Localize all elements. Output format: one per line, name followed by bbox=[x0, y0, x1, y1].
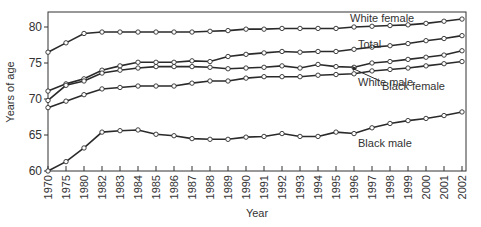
data-point bbox=[316, 49, 320, 53]
data-point bbox=[190, 30, 194, 34]
data-point bbox=[442, 36, 446, 40]
data-point bbox=[316, 62, 320, 66]
x-tick-label: 1999 bbox=[402, 175, 414, 199]
data-point bbox=[46, 105, 50, 109]
data-point bbox=[244, 76, 248, 80]
data-point bbox=[298, 66, 302, 70]
series-label: Total bbox=[358, 38, 381, 50]
data-point bbox=[280, 49, 284, 53]
data-point bbox=[388, 23, 392, 27]
data-point bbox=[460, 49, 464, 53]
x-tick-label: 1993 bbox=[294, 175, 306, 199]
data-point bbox=[172, 30, 176, 34]
data-point bbox=[442, 19, 446, 23]
data-point bbox=[172, 64, 176, 68]
series-label: Black male bbox=[358, 137, 412, 149]
data-point bbox=[370, 126, 374, 130]
data-point bbox=[208, 65, 212, 69]
x-tick-label: 1986 bbox=[168, 175, 180, 199]
x-tick-label: 1990 bbox=[240, 175, 252, 199]
data-point bbox=[370, 61, 374, 65]
series-lines bbox=[46, 17, 464, 173]
data-point bbox=[136, 128, 140, 132]
data-point bbox=[406, 118, 410, 122]
data-point bbox=[316, 134, 320, 138]
series-labels: White femaleTotalBlack femaleWhite maleB… bbox=[350, 12, 445, 149]
data-point bbox=[406, 57, 410, 61]
x-tick-label: 1982 bbox=[96, 175, 108, 199]
data-point bbox=[262, 27, 266, 31]
data-point bbox=[46, 169, 50, 173]
x-tick-label: 1970 bbox=[42, 175, 54, 199]
data-point bbox=[334, 72, 338, 76]
data-point bbox=[172, 134, 176, 138]
data-point bbox=[226, 137, 230, 141]
data-point bbox=[388, 67, 392, 71]
data-point bbox=[118, 128, 122, 132]
data-point bbox=[136, 84, 140, 88]
data-point bbox=[370, 69, 374, 73]
data-point bbox=[208, 79, 212, 83]
x-tick-label: 1992 bbox=[276, 175, 288, 199]
x-tick-label: 1994 bbox=[312, 175, 324, 199]
x-tick-label: 2001 bbox=[438, 175, 450, 199]
life-expectancy-chart: 6065707580 19701975198019821983198419851… bbox=[0, 0, 481, 227]
data-point bbox=[82, 79, 86, 83]
data-point bbox=[388, 59, 392, 63]
x-tick-label: 1989 bbox=[222, 175, 234, 199]
series-label: White male bbox=[358, 76, 413, 88]
data-point bbox=[190, 59, 194, 63]
x-tick-label: 1991 bbox=[258, 175, 270, 199]
data-point bbox=[136, 30, 140, 34]
data-point bbox=[262, 65, 266, 69]
x-tick-label: 1987 bbox=[186, 175, 198, 199]
x-tick-label: 1996 bbox=[348, 175, 360, 199]
series-line bbox=[48, 19, 462, 52]
data-point bbox=[154, 60, 158, 64]
data-point bbox=[118, 85, 122, 89]
data-point bbox=[352, 47, 356, 51]
data-point bbox=[46, 50, 50, 54]
data-point bbox=[100, 87, 104, 91]
data-point bbox=[154, 132, 158, 136]
data-point bbox=[424, 21, 428, 25]
data-point bbox=[226, 28, 230, 32]
y-tick-label: 60 bbox=[29, 164, 43, 178]
data-point bbox=[262, 74, 266, 78]
data-point bbox=[226, 79, 230, 83]
data-point bbox=[406, 66, 410, 70]
data-point bbox=[298, 50, 302, 54]
data-point bbox=[334, 49, 338, 53]
x-tick-label: 1975 bbox=[60, 175, 72, 199]
data-point bbox=[226, 67, 230, 71]
data-point bbox=[442, 62, 446, 66]
data-point bbox=[208, 137, 212, 141]
data-point bbox=[316, 73, 320, 77]
data-point bbox=[352, 131, 356, 135]
x-tick-label: 1995 bbox=[330, 175, 342, 199]
data-point bbox=[136, 60, 140, 64]
data-point bbox=[154, 30, 158, 34]
y-tick-label: 80 bbox=[29, 20, 43, 34]
x-tick-label: 1984 bbox=[132, 175, 144, 199]
series-label: White female bbox=[350, 12, 414, 24]
x-tick-label: 2000 bbox=[420, 175, 432, 199]
data-point bbox=[280, 131, 284, 135]
x-tick-label: 1985 bbox=[150, 175, 162, 199]
data-point bbox=[118, 30, 122, 34]
data-point bbox=[82, 92, 86, 96]
data-point bbox=[208, 29, 212, 33]
y-axis-title: Years of age bbox=[4, 61, 16, 122]
data-point bbox=[100, 30, 104, 34]
x-tick-label: 2002 bbox=[456, 175, 468, 199]
data-point bbox=[154, 64, 158, 68]
data-point bbox=[64, 99, 68, 103]
y-tick-label: 65 bbox=[29, 128, 43, 142]
data-point bbox=[226, 54, 230, 58]
data-point bbox=[424, 64, 428, 68]
data-point bbox=[154, 84, 158, 88]
data-point bbox=[334, 130, 338, 134]
data-point bbox=[244, 27, 248, 31]
data-point bbox=[298, 134, 302, 138]
data-point bbox=[244, 135, 248, 139]
